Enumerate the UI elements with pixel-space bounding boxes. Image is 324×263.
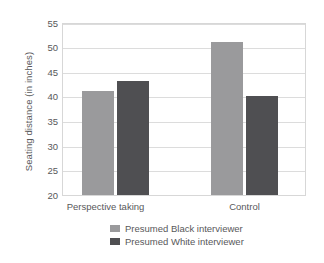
legend-label-presumed-white: Presumed White interviewer [125, 237, 244, 247]
legend-label-presumed-black: Presumed Black interviewer [125, 224, 243, 234]
legend-swatch-icon-presumed-black [110, 225, 120, 232]
y-tick-label-20: 20 [34, 191, 58, 201]
y-tick-label-40: 40 [34, 92, 58, 102]
bar-perspective-taking-presumed-white [117, 81, 149, 195]
y-tick-label-25: 25 [34, 166, 58, 176]
y-tick-label-55: 55 [34, 19, 58, 29]
bar-chart-figure: Seating distance (in inches) 55 50 45 40… [0, 0, 324, 263]
bar-control-presumed-white [246, 96, 278, 195]
plot-area [62, 23, 306, 196]
gridline-45 [63, 73, 305, 74]
y-tick-label-35: 35 [34, 117, 58, 127]
legend-swatch-icon-presumed-white [110, 238, 120, 245]
legend-item-presumed-black: Presumed Black interviewer [110, 222, 244, 235]
y-tick-label-45: 45 [34, 68, 58, 78]
y-tick-label-50: 50 [34, 43, 58, 53]
y-tick-label-30: 30 [34, 142, 58, 152]
y-axis-title: Seating distance (in inches) [23, 27, 34, 197]
chart-legend: Presumed Black interviewer Presumed Whit… [110, 222, 244, 248]
gridline-55 [63, 24, 305, 25]
bar-perspective-taking-presumed-black [82, 91, 114, 195]
legend-item-presumed-white: Presumed White interviewer [110, 235, 244, 248]
bar-control-presumed-black [211, 42, 243, 195]
x-category-label-control: Control [202, 201, 287, 212]
x-category-label-perspective-taking: Perspective taking [63, 201, 148, 212]
gridline-50 [63, 48, 305, 49]
